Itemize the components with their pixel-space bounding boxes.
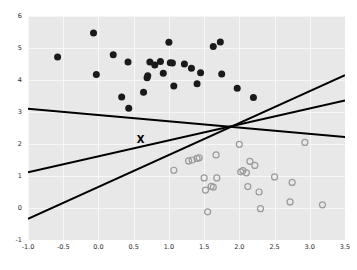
data-point bbox=[210, 43, 217, 50]
y-tick-label: 0 bbox=[0, 204, 22, 212]
data-point bbox=[93, 71, 100, 78]
boundary-descending bbox=[28, 109, 345, 137]
data-point bbox=[217, 38, 224, 45]
data-point bbox=[197, 69, 204, 76]
data-point bbox=[188, 65, 195, 72]
data-point bbox=[236, 141, 242, 147]
query-point-x: X bbox=[137, 134, 145, 145]
data-point bbox=[302, 139, 308, 145]
data-point bbox=[140, 89, 147, 96]
y-tick-label: 4 bbox=[0, 76, 22, 84]
data-point bbox=[171, 167, 177, 173]
data-point bbox=[194, 80, 201, 87]
data-point bbox=[234, 85, 241, 92]
data-point bbox=[250, 94, 257, 101]
data-point bbox=[125, 105, 132, 112]
boundary-steep-ascending bbox=[28, 75, 345, 219]
y-tick-label: 6 bbox=[0, 12, 22, 20]
data-point bbox=[289, 179, 295, 185]
x-tick-label: 2.5 bbox=[260, 243, 290, 251]
x-tick-label: -0.5 bbox=[48, 243, 78, 251]
data-point bbox=[170, 83, 177, 90]
data-point bbox=[125, 59, 132, 66]
plot-area: X bbox=[28, 16, 345, 240]
data-point bbox=[218, 70, 225, 77]
data-point bbox=[181, 61, 188, 68]
x-tick-label: 0.5 bbox=[119, 243, 149, 251]
data-point bbox=[205, 209, 211, 215]
data-point bbox=[157, 58, 164, 65]
data-point bbox=[169, 60, 176, 67]
data-point bbox=[144, 72, 151, 79]
series-class-b-open bbox=[171, 139, 326, 214]
x-tick-label: 2.0 bbox=[224, 243, 254, 251]
data-point bbox=[160, 70, 167, 77]
x-tick-label: 0.0 bbox=[83, 243, 113, 251]
data-point bbox=[214, 175, 220, 181]
data-point bbox=[213, 152, 219, 158]
y-tick-label: 2 bbox=[0, 140, 22, 148]
x-tick-label: 1.0 bbox=[154, 243, 184, 251]
data-point bbox=[201, 175, 207, 181]
data-point bbox=[90, 29, 97, 36]
x-tick-label: -1.0 bbox=[13, 243, 43, 251]
y-tick-label: 5 bbox=[0, 44, 22, 52]
data-point bbox=[256, 189, 262, 195]
x-tick-label: 3.5 bbox=[330, 243, 357, 251]
data-point bbox=[287, 199, 293, 205]
scatter-plot-figure: X -10123456 -1.0-0.50.00.51.01.52.02.53.… bbox=[0, 0, 357, 270]
x-tick-label: 1.5 bbox=[189, 243, 219, 251]
boundary-shallow-ascending bbox=[28, 100, 345, 172]
data-point bbox=[203, 187, 209, 193]
data-point bbox=[110, 51, 117, 58]
data-point bbox=[165, 39, 172, 46]
x-tick-label: 3.0 bbox=[295, 243, 325, 251]
data-point bbox=[257, 206, 263, 212]
data-point bbox=[54, 53, 61, 60]
data-point bbox=[245, 184, 251, 190]
data-point bbox=[252, 162, 258, 168]
y-tick-label: 3 bbox=[0, 108, 22, 116]
y-tick-label: 1 bbox=[0, 172, 22, 180]
data-point bbox=[319, 202, 325, 208]
data-point bbox=[118, 93, 125, 100]
data-point bbox=[272, 174, 278, 180]
series-class-a-filled bbox=[54, 29, 257, 111]
data-layer: X bbox=[28, 16, 345, 240]
